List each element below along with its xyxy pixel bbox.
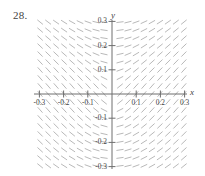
slope-segment	[157, 75, 162, 80]
slope-segment	[85, 29, 92, 32]
slope-field-plot	[33, 18, 188, 170]
slope-segment	[165, 20, 171, 24]
slope-segment	[53, 36, 59, 41]
slope-segment	[101, 133, 108, 135]
x-tick-label: 0.2	[149, 99, 171, 107]
slope-segment	[181, 164, 187, 169]
slope-segment	[125, 76, 131, 81]
slope-segment	[70, 107, 75, 112]
slope-segment	[54, 60, 59, 65]
slope-segment	[37, 36, 42, 41]
slope-segment	[165, 44, 170, 49]
slope-segment	[157, 164, 163, 168]
slope-segment	[46, 131, 51, 136]
slope-segment	[157, 67, 162, 72]
slope-segment	[158, 83, 163, 88]
slope-segment	[85, 148, 92, 151]
x-tick-label: -0.1	[77, 99, 99, 107]
slope-segment	[149, 28, 155, 32]
slope-segment	[133, 107, 138, 112]
slope-segment	[125, 116, 131, 120]
slope-segment	[149, 148, 155, 152]
slope-segment	[37, 28, 42, 33]
slope-segment	[77, 44, 83, 48]
slope-segment	[133, 76, 138, 81]
slope-segment	[157, 148, 163, 152]
slope-segment	[181, 115, 186, 120]
slope-segment	[181, 52, 186, 57]
slope-segment	[173, 20, 179, 24]
slope-segment	[38, 115, 43, 120]
slope-segment	[77, 124, 83, 129]
slope-segment	[149, 52, 155, 57]
slope-segment	[69, 140, 75, 144]
slope-segment	[149, 75, 154, 80]
slope-segment	[165, 107, 170, 112]
slope-segment	[181, 139, 186, 144]
slope-segment	[46, 67, 51, 72]
slope-segment	[46, 115, 51, 120]
slope-segment	[133, 157, 140, 160]
y-axis-label: y	[111, 10, 115, 20]
slope-segment	[77, 52, 83, 56]
slope-segment	[181, 131, 186, 136]
slope-segment	[173, 59, 178, 64]
slope-segment	[94, 83, 99, 88]
slope-segment	[174, 83, 179, 88]
x-tick-label: 0.3	[174, 99, 196, 107]
slope-segment	[157, 36, 163, 40]
slope-segment	[181, 75, 186, 80]
y-tick-label: 0.2	[85, 42, 107, 50]
slope-segment	[77, 36, 83, 40]
slope-segment	[133, 21, 140, 23]
slope-segment	[141, 132, 147, 136]
slope-segment	[141, 44, 147, 48]
slope-segment	[117, 125, 124, 127]
slope-segment	[157, 140, 163, 145]
slope-segment	[173, 52, 178, 57]
slope-segment	[54, 83, 59, 88]
slope-segment	[45, 156, 51, 161]
slope-segment	[53, 52, 58, 57]
slope-segment	[69, 28, 75, 32]
slope-segment	[157, 107, 162, 112]
slope-segment	[181, 44, 186, 49]
slope-segment	[117, 108, 123, 111]
slope-segment	[124, 165, 131, 167]
slope-segment	[100, 30, 107, 31]
slope-segment	[61, 36, 67, 40]
slope-segment	[78, 75, 83, 80]
slope-segment	[125, 108, 131, 113]
slope-segment	[38, 75, 43, 80]
slope-segment	[157, 123, 162, 128]
slope-segment	[62, 67, 67, 72]
slope-segment	[53, 148, 59, 153]
slope-segment	[38, 44, 43, 49]
slope-segment	[165, 164, 171, 168]
slope-segment	[125, 141, 132, 143]
slope-segment	[165, 67, 170, 72]
slope-segment	[70, 75, 75, 80]
slope-segment	[45, 139, 50, 144]
slope-segment	[141, 124, 147, 129]
slope-segment	[117, 117, 124, 119]
slope-segment	[70, 68, 75, 73]
slope-segment	[125, 133, 132, 136]
slope-segment	[37, 156, 42, 161]
slope-segment	[85, 60, 91, 64]
slope-segment	[125, 83, 130, 88]
slope-segment	[181, 147, 186, 152]
slope-segment	[37, 164, 43, 169]
slope-segment	[54, 75, 59, 80]
slope-segment	[38, 59, 43, 64]
slope-segment	[165, 123, 170, 128]
slope-segment	[77, 164, 84, 167]
slope-segment	[166, 83, 171, 88]
slope-segment	[53, 20, 59, 24]
slope-segment	[37, 20, 43, 25]
slope-segment	[165, 156, 171, 160]
slope-segment	[181, 28, 186, 33]
slope-segment	[53, 156, 59, 160]
slope-segment	[46, 83, 51, 88]
slope-segment	[38, 123, 43, 128]
